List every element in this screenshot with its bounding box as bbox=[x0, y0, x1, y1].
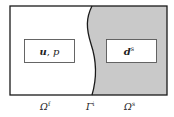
fluid-variables-label: u, p bbox=[39, 46, 60, 57]
solid-domain-label: Ωs bbox=[123, 100, 135, 112]
fsi-domain-diagram: u, p ds Ωf Γi Ωs bbox=[0, 0, 174, 117]
velocity-symbol: u bbox=[39, 46, 46, 57]
interface-label: Γi bbox=[85, 100, 95, 112]
pressure-symbol: p bbox=[53, 46, 60, 57]
fluid-domain-label: Ωf bbox=[39, 100, 51, 112]
displacement-symbol: d bbox=[124, 46, 131, 57]
